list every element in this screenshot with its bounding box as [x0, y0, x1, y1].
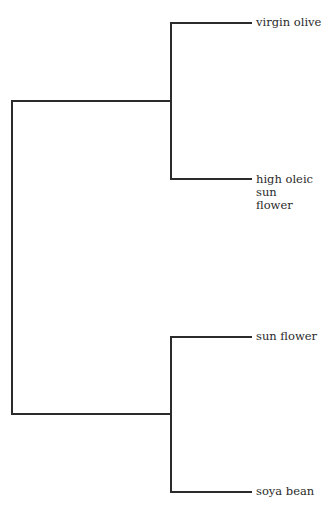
dendrogram: [0, 0, 330, 512]
leaf-label-high-oleic-sun-flower: high oleic sun flower: [256, 173, 330, 212]
cluster-b-link: [171, 337, 252, 492]
leaf-label-soya-bean: soya bean: [256, 485, 314, 498]
root-link: [12, 101, 171, 414]
leaf-label-sun-flower: sun flower: [256, 330, 317, 343]
leaf-label-virgin-olive: virgin olive: [256, 16, 321, 29]
cluster-a-link: [171, 23, 252, 179]
